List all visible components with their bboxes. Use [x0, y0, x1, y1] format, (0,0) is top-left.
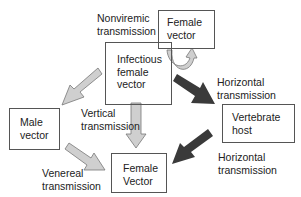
label-horizontal-in: Horizontal transmission: [218, 151, 277, 176]
node-male-vector: Male vector: [9, 108, 60, 150]
label-venereal: Venereal transmission: [42, 167, 101, 192]
node-label: Infectious female vector: [117, 53, 162, 91]
label-nonviremic: Nonviremic transmission: [97, 12, 156, 37]
node-label: Male vector: [20, 116, 49, 141]
node-infectious-female-vector: Infectious female vector: [105, 42, 172, 105]
transmission-diagram: Female vector Infectious female vector M…: [0, 0, 301, 197]
label-vertical: Vertical transmission: [81, 107, 140, 132]
node-label: Female Vector: [123, 162, 158, 187]
node-label: Vertebrate host: [232, 111, 280, 136]
arrow-from-vertebrate-host: [172, 129, 213, 164]
arrow-to-male-vector: [62, 68, 102, 105]
arrow-venereal: [65, 143, 105, 170]
node-vertebrate-host: Vertebrate host: [222, 104, 295, 143]
label-horizontal-out: Horizontal transmission: [217, 76, 276, 101]
node-female-vector-bottom: Female Vector: [111, 153, 167, 193]
node-label: Female vector: [167, 16, 202, 41]
arrow-to-vertebrate-host: [173, 74, 215, 104]
